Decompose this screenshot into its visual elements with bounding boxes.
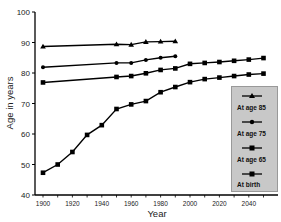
square-marker-icon (158, 68, 163, 73)
x-tick-label: 1940 (95, 200, 110, 207)
y-tick-label: 70 (21, 100, 30, 109)
circle-marker-icon (173, 54, 177, 58)
square-marker-icon (247, 72, 252, 77)
square-marker-icon (144, 71, 149, 76)
x-tick-label: 2020 (212, 200, 227, 207)
series-line (43, 56, 175, 67)
legend-label: At birth (237, 181, 260, 188)
x-axis-label: Year (147, 208, 166, 219)
square-marker-icon (232, 169, 277, 179)
y-tick-label: 40 (21, 191, 30, 200)
square-marker-icon (232, 59, 237, 64)
x-tick-label: 1920 (65, 200, 80, 207)
square-marker-icon (202, 61, 207, 66)
square-marker-icon (114, 75, 119, 80)
square-marker-icon (144, 99, 149, 104)
square-marker-icon (41, 80, 46, 85)
square-marker-icon (129, 74, 134, 79)
x-tick-label: 2040 (242, 200, 257, 207)
square-marker-icon (188, 62, 193, 67)
square-marker-icon (85, 133, 90, 138)
series-at-age-85 (40, 38, 178, 48)
legend-label: At age 65 (237, 156, 266, 163)
series-line (43, 41, 175, 46)
square-marker-icon (70, 150, 75, 155)
square-marker-icon (217, 60, 222, 65)
legend-label: At age 75 (237, 130, 266, 137)
series-at-age-65 (41, 56, 266, 85)
square-marker-icon (114, 107, 119, 112)
circle-marker-icon (144, 58, 148, 62)
series-line (43, 58, 264, 82)
legend-label: At age 85 (237, 104, 266, 111)
square-marker-icon (232, 74, 237, 79)
series-at-age-75 (41, 54, 177, 69)
square-marker-icon (261, 56, 266, 61)
x-tick-label: 1900 (36, 200, 51, 207)
y-axis-label: Age in years (4, 76, 15, 129)
square-marker-icon (202, 77, 207, 82)
square-marker-icon (261, 71, 266, 76)
square-marker-icon (173, 85, 178, 90)
square-marker-icon (158, 90, 163, 95)
square-marker-icon (173, 66, 178, 71)
square-marker-icon (232, 143, 277, 153)
square-marker-icon (247, 57, 252, 62)
square-marker-icon (100, 123, 105, 128)
circle-marker-icon (159, 56, 163, 60)
y-tick-label: 50 (21, 161, 30, 170)
triangle-marker-icon (232, 91, 277, 101)
y-tick-label: 90 (21, 39, 30, 48)
circle-marker-icon (115, 61, 119, 65)
square-marker-icon (41, 170, 46, 175)
circle-marker-icon (232, 117, 277, 127)
square-marker-icon (55, 162, 60, 167)
square-marker-icon (129, 102, 134, 107)
legend: At age 85 At age 75 At age 65 At birth (231, 86, 278, 192)
circle-marker-icon (41, 65, 45, 69)
circle-marker-icon (129, 61, 133, 65)
square-marker-icon (188, 80, 193, 85)
x-tick-label: 1980 (153, 200, 168, 207)
y-tick-label: 100 (17, 8, 31, 17)
y-tick-label: 60 (21, 130, 30, 139)
x-tick-label: 2000 (183, 200, 198, 207)
square-marker-icon (217, 75, 222, 80)
y-tick-label: 80 (21, 69, 30, 78)
x-tick-label: 1960 (124, 200, 139, 207)
